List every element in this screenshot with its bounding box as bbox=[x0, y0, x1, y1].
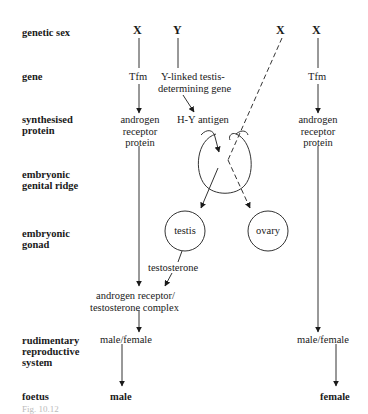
node-ovary: ovary bbox=[248, 225, 288, 237]
row-label-rudimentary: rudimentary reproductive system bbox=[22, 335, 79, 368]
row-label-line: embryonic bbox=[22, 228, 70, 239]
arrow-gene-to-hy bbox=[183, 95, 194, 112]
node-testosterone: testosterone bbox=[148, 262, 198, 274]
row-label-line: rudimentary bbox=[22, 335, 79, 346]
node-outcome-male: male bbox=[110, 391, 132, 403]
node-tfm-gene: Tfm bbox=[129, 71, 147, 83]
node-line: receptor bbox=[114, 126, 166, 138]
row-label-line: synthesised bbox=[22, 114, 73, 125]
genital-ridge-shape bbox=[198, 133, 251, 193]
node-receptor-complex: androgen receptor/ testosterone complex bbox=[90, 290, 179, 313]
row-label-gene: gene bbox=[22, 71, 42, 82]
node-x-chromosome-right: X bbox=[312, 25, 321, 37]
node-line: receptor bbox=[292, 126, 344, 138]
row-label-line: embryonic bbox=[22, 169, 78, 180]
figure-caption: Fig. 10.12 bbox=[22, 404, 59, 414]
node-line: androgen receptor/ bbox=[96, 290, 179, 302]
row-label-line: protein bbox=[22, 125, 73, 136]
arrow-ridge-to-ovary bbox=[228, 160, 250, 208]
node-line: determining gene bbox=[158, 83, 231, 95]
node-androgen-receptor-protein-right: androgen receptor protein bbox=[292, 114, 344, 149]
node-y-linked-gene: Y-linked testis- determining gene bbox=[158, 71, 231, 94]
node-line: androgen bbox=[114, 114, 166, 126]
node-line: protein bbox=[114, 137, 166, 149]
node-x-dashed: X bbox=[276, 25, 285, 37]
node-testis: testis bbox=[165, 225, 205, 237]
row-label-line: genital ridge bbox=[22, 180, 78, 191]
node-male-female-left: male/female bbox=[100, 334, 152, 346]
node-x-chromosome: X bbox=[133, 25, 142, 37]
node-androgen-receptor-protein: androgen receptor protein bbox=[114, 114, 166, 149]
row-label-foetus: foetus bbox=[22, 391, 49, 402]
row-label-gonad: embryonic gonad bbox=[22, 228, 70, 250]
arrow-ridge-to-testis bbox=[201, 168, 218, 208]
node-male-female-right: male/female bbox=[297, 334, 349, 346]
row-label-line: system bbox=[22, 357, 79, 368]
node-line: testosterone complex bbox=[90, 302, 179, 314]
row-label-genital-ridge: embryonic genital ridge bbox=[22, 169, 78, 191]
node-outcome-female: female bbox=[320, 391, 350, 403]
row-label-line: reproductive bbox=[22, 346, 79, 357]
node-tfm-gene-right: Tfm bbox=[308, 71, 326, 83]
arrow-testosterone-to-complex bbox=[165, 273, 172, 286]
arrow-x-dashed-to-ridge bbox=[228, 38, 282, 160]
row-label-line: gonad bbox=[22, 239, 70, 250]
row-label-synthesised-protein: synthesised protein bbox=[22, 114, 73, 136]
node-hy-antigen: H-Y antigen bbox=[177, 114, 229, 126]
node-line: Y-linked testis- bbox=[161, 71, 231, 83]
node-line: protein bbox=[292, 137, 344, 149]
node-y-chromosome: Y bbox=[173, 25, 182, 37]
node-line: androgen bbox=[292, 114, 344, 126]
arrow-testis-to-testosterone bbox=[178, 251, 182, 262]
row-label-genetic-sex: genetic sex bbox=[22, 27, 70, 38]
arrow-hy-to-ridge bbox=[201, 131, 219, 152]
